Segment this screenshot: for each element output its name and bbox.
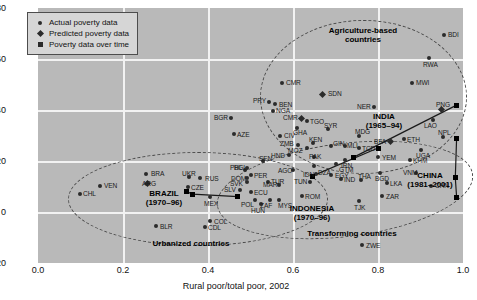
point-label: UKR <box>182 170 196 177</box>
point-label: MAR <box>263 181 277 188</box>
series-label-indonesia-country: INDONESIA <box>278 204 346 213</box>
y-tick-40: 40 <box>0 106 6 115</box>
data-point <box>378 171 382 175</box>
data-point <box>402 137 406 141</box>
point-label: BFA <box>374 138 386 145</box>
series-label-india: INDIA (1965–94) <box>361 112 407 130</box>
point-label: ZMB <box>280 140 294 147</box>
cluster-label-agriculture-line1: Agriculture-basedcountries <box>308 26 418 44</box>
cluster-label-transforming: Transforming countries <box>292 229 412 238</box>
cluster-label-agriculture: Agriculture-basedcountries <box>308 26 418 44</box>
point-label: ZAR <box>386 193 399 200</box>
x-tick-08: 0.8 <box>363 266 393 275</box>
data-point <box>300 194 304 198</box>
square-marker-icon <box>34 42 46 47</box>
point-label: MOZ <box>288 147 302 154</box>
data-point-timeseries <box>454 103 459 108</box>
point-label: TUN <box>294 178 307 185</box>
point-label: NER <box>357 103 371 110</box>
data-point-timeseries <box>190 192 195 197</box>
series-label-india-country: INDIA <box>361 112 407 121</box>
series-label-china-country: CHINA <box>403 171 457 180</box>
point-label: NPL <box>438 129 451 136</box>
data-point <box>208 219 212 223</box>
x-axis-label: Rural poor/total poor, 2002 <box>0 281 472 291</box>
series-label-indonesia-period: (1970–96) <box>278 213 346 222</box>
point-label: KEN <box>309 136 322 143</box>
point-label: CHL <box>83 190 96 197</box>
diamond-marker-icon <box>34 31 46 36</box>
point-label: PHL <box>230 164 243 171</box>
data-point <box>232 132 236 136</box>
data-point <box>372 105 376 109</box>
point-label: ETH <box>407 136 420 143</box>
point-label: ARG <box>142 180 156 187</box>
data-point <box>431 118 435 122</box>
x-tick-06: 0.6 <box>278 266 308 275</box>
x-tick-10: 1.0 <box>448 266 477 275</box>
point-label: ZWE <box>366 242 380 249</box>
series-label-india-period: (1965–94) <box>361 121 407 130</box>
point-label: GHA <box>293 129 307 136</box>
data-point <box>419 148 423 152</box>
point-label: CMR <box>286 79 301 86</box>
circle-marker-icon <box>34 21 46 25</box>
data-point <box>408 158 412 162</box>
data-point <box>308 180 312 184</box>
point-label: AGO <box>278 167 292 174</box>
data-point-timeseries <box>235 194 240 199</box>
series-label-china: CHINA (1981–2001) <box>403 171 457 189</box>
point-label: NGA <box>276 107 290 114</box>
point-label: SEN <box>259 155 272 162</box>
point-label: PNG <box>436 101 450 108</box>
point-label: HND <box>271 152 285 159</box>
point-label: PAK <box>309 153 321 160</box>
point-label: HUN <box>251 207 265 214</box>
point-label: MEX <box>204 200 218 207</box>
point-label: RWA <box>423 61 438 68</box>
point-label: DZA <box>318 169 331 176</box>
point-label: BRA <box>151 170 164 177</box>
data-point-timeseries <box>454 136 459 141</box>
data-point <box>305 119 309 123</box>
point-label: BLR <box>160 223 173 230</box>
point-label: KHM <box>413 157 427 164</box>
data-point <box>238 188 242 192</box>
series-label-china-period: (1981–2001) <box>403 180 457 189</box>
series-label-brazil-country: BRAZIL <box>138 189 190 198</box>
legend-item-overtime: Poverty data over time <box>34 39 129 50</box>
data-point <box>203 225 207 229</box>
y-tick-80: 80 <box>0 4 6 13</box>
point-label: LKA <box>390 180 402 187</box>
chart-legend: Actual poverty data Predicted poverty da… <box>27 12 138 55</box>
point-label: IDN <box>303 171 314 178</box>
data-point <box>280 81 284 85</box>
point-label: VEN <box>104 182 117 189</box>
point-label: ECU <box>254 189 268 196</box>
legend-item-actual: Actual poverty data <box>34 17 129 28</box>
point-label: ROM <box>305 193 320 200</box>
y-tick-0: 0 <box>0 208 6 217</box>
y-tick-60: 60 <box>0 55 6 64</box>
cluster-label-urbanized: Urbanized countries <box>131 239 251 248</box>
legend-label-actual: Actual poverty data <box>49 18 117 27</box>
series-label-indonesia: INDONESIA (1970–96) <box>278 204 346 222</box>
y-tick-20: 20 <box>0 157 6 166</box>
x-tick-00: 0.0 <box>23 266 53 275</box>
point-label: TJK <box>354 204 365 211</box>
series-label-brazil-period: (1970–96) <box>138 198 190 207</box>
data-point <box>98 184 102 188</box>
data-point <box>249 173 253 177</box>
point-label: SDN <box>328 90 342 97</box>
point-label: MLI <box>347 142 358 149</box>
point-label: AZE <box>237 131 250 138</box>
point-label: CMR <box>283 114 298 121</box>
legend-label-predicted: Predicted poverty data <box>49 29 129 38</box>
point-label: PRY <box>253 97 266 104</box>
data-point <box>278 134 282 138</box>
data-point-timeseries <box>376 146 381 151</box>
data-point <box>249 190 253 194</box>
data-point <box>410 81 414 85</box>
point-label: TGO <box>310 118 324 125</box>
